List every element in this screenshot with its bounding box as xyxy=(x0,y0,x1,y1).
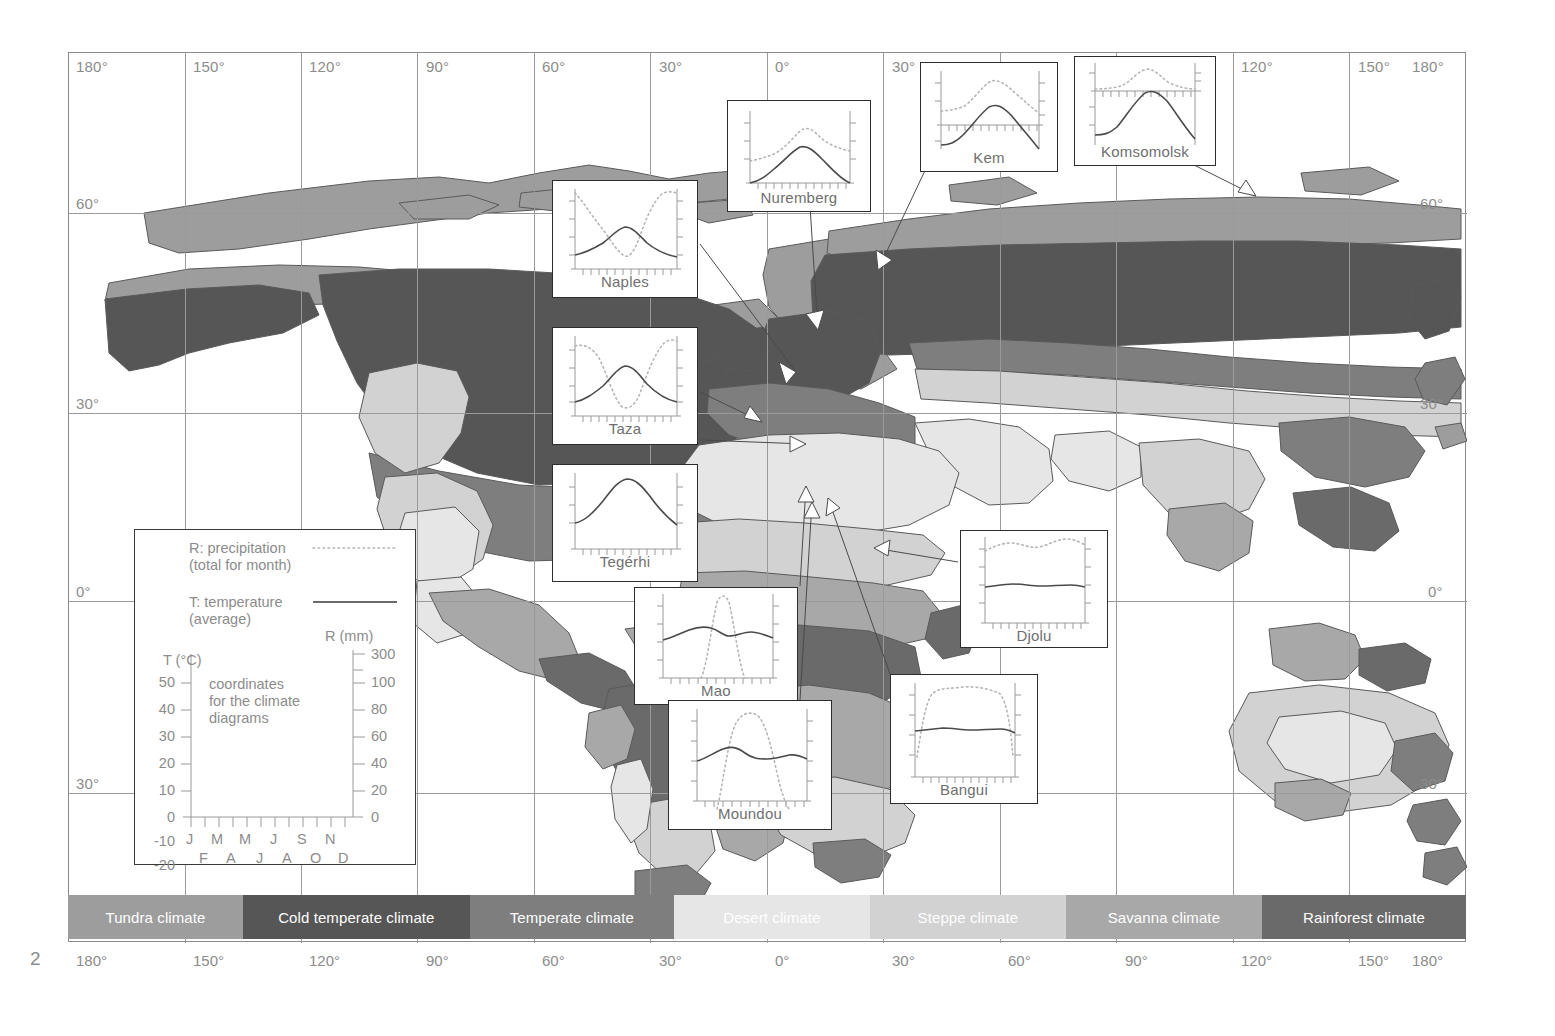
climate-map-page: 180° 150° 120° 90° 60° 30° 0° 30° 60° 90… xyxy=(0,0,1555,1036)
climate-legend-cold-temperate[interactable]: Cold temperate climate xyxy=(243,895,470,939)
key-t-value-m10: -10 xyxy=(137,833,175,849)
key-temperature-label: T: temperature (average) xyxy=(189,594,329,628)
key-r-value-60: 60 xyxy=(371,728,387,744)
key-month-o: O xyxy=(310,850,321,866)
climate-diagram-djolu[interactable]: Djolu xyxy=(960,530,1108,648)
page-number: 2 xyxy=(30,948,41,970)
key-r-value-100: 100 xyxy=(371,674,395,690)
climate-diagram-title: Tegérhi xyxy=(553,553,697,570)
latitude-label-left-3: 30° xyxy=(76,775,99,792)
climate-diagram-kem[interactable]: Kem xyxy=(920,62,1058,172)
climate-legend-label: Steppe climate xyxy=(918,909,1019,926)
longitude-label-top-2: 120° xyxy=(309,58,341,75)
climate-diagram-title: Kem xyxy=(921,149,1057,166)
climate-diagram-komsomolsk[interactable]: Komsomolsk xyxy=(1074,56,1216,166)
climate-legend-desert[interactable]: Desert climate xyxy=(674,895,870,939)
key-r-axis-title: R (mm) xyxy=(325,628,373,645)
climate-legend-savanna[interactable]: Savanna climate xyxy=(1066,895,1262,939)
longitude-label-top-0: 180° xyxy=(76,58,108,75)
longitude-label-top-12: 180° xyxy=(1412,58,1444,75)
longitude-label-bottom-10: 120° xyxy=(1241,952,1272,969)
key-month-j1: J xyxy=(186,831,193,847)
key-month-s: S xyxy=(297,831,307,847)
longitude-label-top-6: 0° xyxy=(775,58,790,75)
landmass-australia-oceania xyxy=(1229,623,1467,885)
climate-diagram-tegerhi[interactable]: Tegérhi xyxy=(552,464,698,582)
climate-legend-label: Rainforest climate xyxy=(1303,909,1425,926)
longitude-label-bottom-9: 90° xyxy=(1125,952,1148,969)
longitude-label-bottom-1: 150° xyxy=(193,952,224,969)
latitude-label-left-0: 60° xyxy=(76,195,99,212)
key-month-a2: A xyxy=(282,850,292,866)
key-r-value-80: 80 xyxy=(371,701,387,717)
climate-legend-steppe[interactable]: Steppe climate xyxy=(870,895,1066,939)
key-t-value-40: 40 xyxy=(141,701,175,717)
latitude-label-right-1: 30° xyxy=(1420,395,1443,412)
longitude-label-top-10: 120° xyxy=(1241,58,1273,75)
latitude-label-right-0: 60° xyxy=(1420,195,1443,212)
climate-legend-rainforest[interactable]: Rainforest climate xyxy=(1262,895,1466,939)
key-month-f: F xyxy=(199,850,208,866)
climate-diagram-mao[interactable]: Mao xyxy=(634,587,798,705)
key-t-value-50: 50 xyxy=(141,674,175,690)
climate-legend-tundra[interactable]: Tundra climate xyxy=(68,895,243,939)
climate-legend-temperate[interactable]: Temperate climate xyxy=(470,895,674,939)
climate-diagram-title: Mao xyxy=(635,682,797,699)
climate-diagram-moundou[interactable]: Moundou xyxy=(668,700,832,830)
key-month-d: D xyxy=(338,850,348,866)
climate-legend-label: Tundra climate xyxy=(105,909,205,926)
climate-diagram-title: Taza xyxy=(553,420,697,437)
key-month-n: N xyxy=(325,831,335,847)
longitude-label-bottom-12: 180° xyxy=(1412,952,1443,969)
longitude-label-bottom-8: 60° xyxy=(1008,952,1031,969)
longitude-label-bottom-6: 0° xyxy=(775,952,789,969)
key-month-j2: J xyxy=(270,831,277,847)
key-r-value-40: 40 xyxy=(371,755,387,771)
key-month-m2: M xyxy=(239,831,251,847)
latitude-label-right-3: 30° xyxy=(1420,775,1443,792)
key-r-value-20: 20 xyxy=(371,782,387,798)
longitude-label-top-4: 60° xyxy=(542,58,565,75)
climate-diagram-title: Nuremberg xyxy=(728,189,870,206)
climate-diagram-naples[interactable]: Naples xyxy=(552,180,698,298)
key-center-text: coordinates for the climate diagrams xyxy=(209,676,329,727)
climate-legend-bar: Tundra climate Cold temperate climate Te… xyxy=(68,895,1466,939)
longitude-label-top-11: 150° xyxy=(1358,58,1390,75)
key-t-value-m20: -20 xyxy=(137,857,175,873)
longitude-label-bottom-0: 180° xyxy=(76,952,107,969)
longitude-label-top-1: 150° xyxy=(193,58,225,75)
key-r-value-0: 0 xyxy=(371,809,379,825)
longitude-label-bottom-2: 120° xyxy=(309,952,340,969)
latitude-label-left-1: 30° xyxy=(76,395,99,412)
climate-diagram-title: Moundou xyxy=(669,805,831,822)
key-t-value-0: 0 xyxy=(141,809,175,825)
key-t-value-30: 30 xyxy=(141,728,175,744)
latitude-label-right-2: 0° xyxy=(1428,583,1443,600)
key-t-value-10: 10 xyxy=(141,782,175,798)
longitude-label-bottom-11: 150° xyxy=(1358,952,1389,969)
key-t-value-20: 20 xyxy=(141,755,175,771)
longitude-label-bottom-3: 90° xyxy=(426,952,449,969)
climate-diagram-taza[interactable]: Taza xyxy=(552,327,698,445)
key-month-m1: M xyxy=(211,831,223,847)
climate-diagram-nuremberg[interactable]: Nuremberg xyxy=(727,100,871,212)
longitude-label-top-3: 90° xyxy=(426,58,449,75)
key-month-a1: A xyxy=(226,850,236,866)
key-t-axis-title: T (°C) xyxy=(163,652,202,669)
climate-diagram-bangui[interactable]: Bangui xyxy=(890,674,1038,804)
key-month-j3: J xyxy=(256,850,263,866)
climate-legend-label: Temperate climate xyxy=(510,909,634,926)
longitude-label-bottom-7: 30° xyxy=(892,952,915,969)
climate-diagram-title: Komsomolsk xyxy=(1075,143,1215,160)
longitude-label-bottom-4: 60° xyxy=(542,952,565,969)
climate-diagram-title: Djolu xyxy=(961,627,1107,644)
longitude-label-top-7: 30° xyxy=(892,58,915,75)
climate-diagram-title: Bangui xyxy=(891,781,1037,798)
diagram-key-box: R: precipitation (total for month) T: te… xyxy=(134,529,416,865)
latitude-label-left-2: 0° xyxy=(76,583,91,600)
key-precipitation-label: R: precipitation (total for month) xyxy=(189,540,329,574)
climate-legend-label: Savanna climate xyxy=(1108,909,1220,926)
climate-legend-label: Cold temperate climate xyxy=(278,909,434,926)
longitude-label-bottom-5: 30° xyxy=(659,952,682,969)
key-r-value-300: 300 xyxy=(371,646,395,662)
